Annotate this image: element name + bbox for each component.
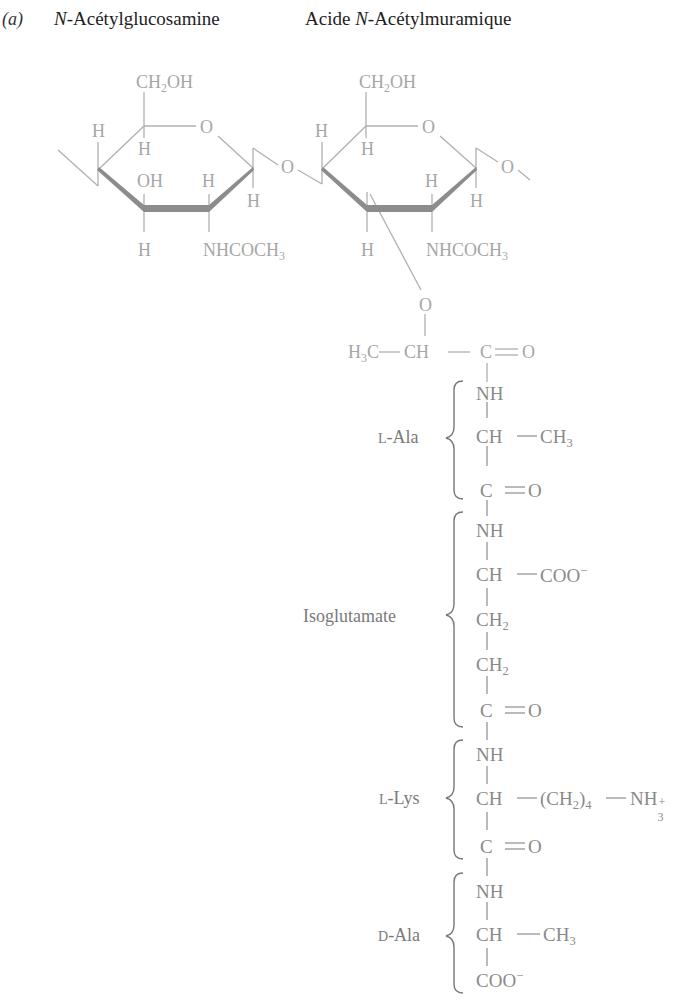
peptide-bonds [487, 402, 626, 966]
isoglu-ch: CH [476, 565, 502, 584]
glcnac-c4-h: H [92, 122, 105, 140]
residue-label-l-ala: L-Ala [378, 428, 419, 446]
brace-l-ala [446, 381, 463, 499]
murnac-c2-nhcoch3: NHCOCH3 [426, 241, 508, 263]
l-lys-side-chain: (CH2)4 [540, 789, 592, 812]
l-lys-ch: CH [476, 789, 502, 808]
glcnac-c3-oh: OH [137, 172, 163, 190]
residue-label-l-lys: L-Lys [379, 789, 420, 807]
murnac-c2-h: H [425, 172, 438, 190]
isoglu-o: O [528, 701, 542, 720]
d-ala-nh: NH [476, 882, 503, 901]
brace-isoglutamate [446, 512, 463, 727]
murnac-ch2oh: CH2OH [359, 73, 416, 95]
murnac-c5-h: H [361, 140, 374, 158]
isoglu-nh: NH [476, 521, 503, 540]
residue-label-d-ala: D-Ala [378, 926, 420, 944]
lactyl-h3c: H3C [348, 343, 379, 365]
title-right-text-1: Acide [305, 8, 355, 29]
glcnac-c2-h: H [202, 172, 215, 190]
lactyl-ether-oxygen: O [419, 296, 432, 314]
lactyl-bonds [379, 314, 518, 382]
murnac-c4-h: H [315, 122, 328, 140]
title-left-text: -Acétylglucosamine [67, 8, 220, 29]
murnac-glycosidic-oxygen: O [501, 158, 514, 176]
bond-lines [0, 0, 700, 1006]
l-lys-c: C [480, 837, 493, 856]
murnac-c3-h: H [361, 241, 374, 259]
l-ala-ch: CH [476, 427, 502, 446]
brace-d-ala [446, 873, 463, 993]
residue-braces [446, 381, 463, 993]
l-lys-nh3-plus: NH+3 [630, 789, 666, 808]
lactyl-ch: CH [404, 343, 429, 361]
glycosidic-oxygen: O [281, 158, 294, 176]
glcnac-ring-oxygen: O [200, 118, 213, 136]
l-lys-o: O [528, 837, 542, 856]
glcnac-ch2oh: CH2OH [136, 73, 193, 95]
isoglu-coo: COO− [540, 565, 587, 585]
residue-label-isoglutamate: Isoglutamate [303, 607, 396, 625]
murnac-bold-edge [321, 167, 477, 212]
title-n-acetylmuramic-acid: Acide N-Acétylmuramique [305, 9, 511, 28]
l-ala-o: O [528, 481, 542, 500]
glcnac-bold-edge [97, 167, 254, 212]
peptidoglycan-diagram: (a) N-Acétylglucosamine Acide N-Acétylmu… [0, 0, 700, 1006]
isoglu-ch2-a: CH2 [476, 610, 509, 633]
title-right-text-2: -Acétylmuramique [368, 8, 512, 29]
title-left-italic: N [54, 8, 67, 29]
l-lys-nh: NH [476, 745, 503, 764]
d-ala-ch3: CH3 [543, 925, 576, 948]
lactyl-carbonyl-c: C [480, 343, 492, 361]
glcnac-c2-nhcoch3: NHCOCH3 [203, 241, 285, 263]
brace-l-lys [446, 740, 463, 859]
isoglu-ch2-b: CH2 [476, 655, 509, 678]
l-ala-ch3: CH3 [540, 427, 573, 450]
isoglu-c: C [480, 701, 493, 720]
panel-label: (a) [2, 10, 23, 28]
d-ala-ch: CH [476, 925, 502, 944]
glcnac-c1-h: H [247, 192, 260, 210]
d-ala-coo: COO− [476, 970, 523, 990]
l-ala-nh: NH [476, 384, 503, 403]
lactyl-carbonyl-o: O [522, 343, 535, 361]
murnac-ring-oxygen: O [422, 118, 435, 136]
murnac-c1-h: H [470, 192, 483, 210]
l-ala-c: C [480, 481, 493, 500]
glcnac-c5-h: H [138, 140, 151, 158]
title-right-italic: N [355, 8, 368, 29]
title-n-acetylglucosamine: N-Acétylglucosamine [54, 9, 220, 28]
glcnac-c3-h: H [138, 241, 151, 259]
